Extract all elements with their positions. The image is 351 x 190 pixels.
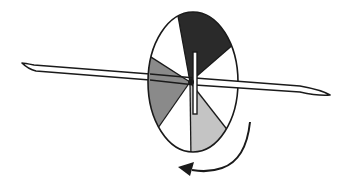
spindle-left [22,63,150,80]
diagram-canvas [0,0,351,190]
spinning-disk-diagram [0,0,351,190]
